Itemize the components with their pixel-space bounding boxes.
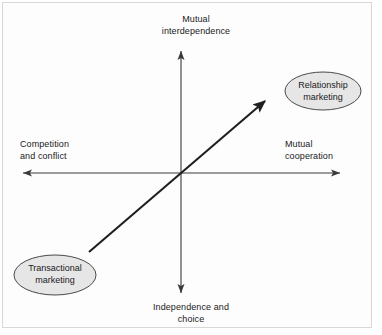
progression-arrow — [89, 101, 265, 252]
node-relationship-marketing[interactable] — [285, 72, 361, 110]
axis-label-competition-and-conflict: Competition and conflict — [20, 139, 116, 162]
axis-label-mutual-cooperation: Mutual cooperation — [285, 139, 381, 162]
axis-label-independence-and-choice: Independence and choice — [136, 302, 246, 325]
node-transactional-marketing[interactable] — [14, 255, 96, 295]
diagram-canvas: Mutual interdependence Independence and … — [0, 0, 382, 335]
axis-label-mutual-interdependence: Mutual interdependence — [141, 14, 251, 37]
diagram-graphics — [0, 0, 382, 335]
